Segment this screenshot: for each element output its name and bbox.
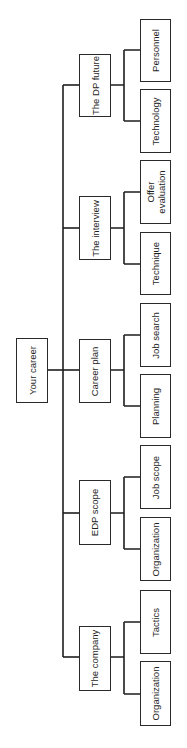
node-label: Organization	[150, 667, 161, 721]
bracket-career-plan	[110, 335, 140, 406]
node-company: The company	[79, 626, 111, 691]
bracket-edp-scope	[110, 477, 140, 549]
node-label: Offer evaluation	[145, 170, 167, 213]
node-interview: The interview	[79, 196, 111, 260]
node-offer-evaluation: Offer evaluation	[140, 160, 171, 224]
node-label: The interview	[90, 200, 101, 257]
node-your-career: Your career	[16, 338, 48, 403]
node-edp-organization: Organization	[140, 517, 171, 581]
node-job-scope: Job scope	[140, 445, 171, 509]
bracket-company	[110, 622, 140, 694]
node-job-search: Job search	[140, 303, 171, 367]
node-dp-future: The DP future	[79, 54, 111, 117]
node-label: Organization	[150, 522, 161, 576]
node-label: EDP scope	[90, 489, 101, 536]
node-planning: Planning	[140, 374, 171, 438]
career-tree-diagram: Your career The DP future The interview …	[0, 0, 187, 748]
bracket-dp-future	[110, 50, 140, 121]
node-label: The company	[90, 630, 101, 688]
node-label: Your career	[27, 346, 38, 395]
node-label: Career plan	[90, 346, 101, 396]
node-label: Job scope	[150, 455, 161, 498]
node-company-organization: Organization	[140, 661, 171, 726]
node-label: Planning	[150, 388, 161, 425]
node-label: Technology	[150, 97, 161, 145]
node-label: Job search	[150, 312, 161, 358]
node-label: The DP future	[90, 56, 101, 115]
node-technique: Technique	[140, 232, 171, 295]
node-edp-scope: EDP scope	[79, 480, 111, 545]
bracket-interview	[110, 192, 140, 264]
node-label: Personnel	[150, 29, 161, 72]
node-label: Tactics	[150, 607, 161, 636]
node-career-plan: Career plan	[79, 339, 111, 403]
node-technology: Technology	[140, 89, 171, 153]
node-tactics: Tactics	[140, 590, 171, 654]
node-personnel: Personnel	[140, 19, 171, 82]
node-label: Technique	[150, 242, 161, 285]
